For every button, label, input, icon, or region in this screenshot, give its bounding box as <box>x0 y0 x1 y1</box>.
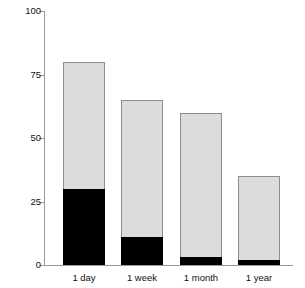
bar-group-2[interactable] <box>180 11 222 265</box>
bar-dark-2 <box>180 257 222 265</box>
y-tick-label-50: 50 <box>30 131 41 144</box>
plot-area: 0 25 50 75 100 <box>44 11 293 265</box>
x-axis-label-3: 1 year <box>226 272 292 284</box>
bar-total-3 <box>238 176 280 265</box>
bar-group-0[interactable] <box>63 11 105 265</box>
y-tick-label-0: 0 <box>36 258 41 271</box>
bar-total-2 <box>180 113 222 265</box>
y-axis-title: Percentage pain relief <box>0 0 18 18</box>
bar-group-1[interactable] <box>121 11 163 265</box>
bar-group-3[interactable] <box>238 11 280 265</box>
y-tick-label-100: 100 <box>25 4 41 17</box>
x-axis-label-0: 1 day <box>51 272 117 284</box>
bar-chart: Percentage pain relief 0 25 50 75 100 <box>0 0 305 288</box>
bar-dark-0 <box>63 189 105 265</box>
bar-dark-3 <box>238 260 280 265</box>
x-axis-label-2: 1 month <box>168 272 234 284</box>
y-tick-label-75: 75 <box>30 68 41 81</box>
y-tick-label-25: 25 <box>30 195 41 208</box>
x-axis-label-1: 1 week <box>109 272 175 284</box>
bar-dark-1 <box>121 237 163 265</box>
x-axis-line <box>44 265 293 266</box>
y-axis-title-container: Percentage pain relief <box>0 0 20 288</box>
